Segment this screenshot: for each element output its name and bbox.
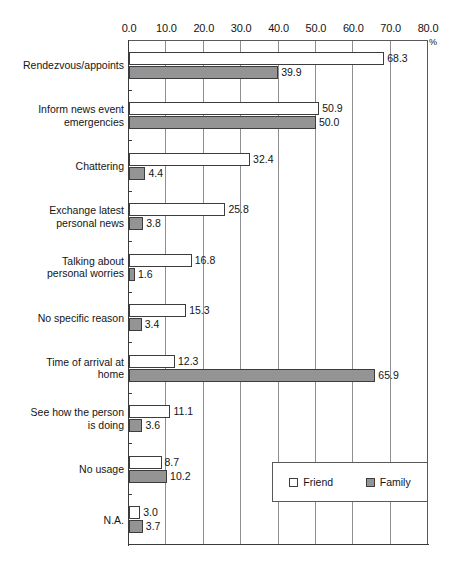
x-axis-tick-1: 10.0	[156, 22, 177, 34]
bar-family[interactable]	[129, 419, 142, 432]
percentage-bar-chart: 0.010.020.030.040.050.060.070.080.0 % Re…	[0, 0, 456, 569]
category-label: N.A.	[0, 514, 124, 527]
bar-track: 50.0	[129, 116, 428, 129]
bar-track: 11.1	[129, 405, 428, 418]
bar-track: 68.3	[129, 52, 428, 65]
bar-friend[interactable]	[129, 456, 162, 469]
bar-track: 3.6	[129, 419, 428, 432]
bar-track: 3.0	[129, 506, 428, 519]
bar-family[interactable]	[129, 167, 145, 180]
x-axis-tick-5: 50.0	[306, 22, 327, 34]
legend-item-friend[interactable]: Friend	[289, 476, 333, 488]
bar-group: N.A.3.03.7	[0, 495, 456, 546]
bar-friend[interactable]	[129, 52, 384, 65]
x-axis-tick-8: 80.0	[418, 22, 439, 34]
bar-value-label: 3.0	[140, 506, 158, 519]
bar-value-label: 10.2	[167, 470, 190, 483]
bar-friend[interactable]	[129, 102, 319, 115]
category-label: See how the person is doing	[0, 406, 124, 431]
category-label: No usage	[0, 463, 124, 476]
bar-group: Rendezvous/appoints68.339.9	[0, 40, 456, 91]
bar-track: 12.3	[129, 355, 428, 368]
bar-track: 4.4	[129, 167, 428, 180]
bar-friend[interactable]	[129, 355, 175, 368]
legend-label: Family	[380, 476, 411, 488]
bar-track: 16.8	[129, 254, 428, 267]
bar-value-label: 50.0	[316, 116, 339, 129]
x-axis-tick-7: 70.0	[380, 22, 401, 34]
chart-legend: FriendFamily	[272, 462, 428, 502]
bar-group: See how the person is doing11.13.6	[0, 394, 456, 445]
bar-value-label: 16.8	[192, 254, 215, 267]
bar-group: No specific reason15.33.4	[0, 293, 456, 344]
bar-friend[interactable]	[129, 506, 140, 519]
bar-track: 32.4	[129, 153, 428, 166]
bar-value-label: 65.9	[375, 369, 398, 382]
x-axis-tick-2: 20.0	[193, 22, 214, 34]
bar-value-label: 11.1	[170, 405, 193, 418]
bar-value-label: 3.7	[143, 520, 161, 533]
bar-track: 39.9	[129, 66, 428, 79]
legend-items: FriendFamily	[273, 463, 427, 501]
category-label: Chattering	[0, 160, 124, 173]
bar-family[interactable]	[129, 369, 375, 382]
bar-friend[interactable]	[129, 254, 192, 267]
bar-group: Exchange latest personal news25.83.8	[0, 192, 456, 243]
category-label: Inform news event emergencies	[0, 103, 124, 128]
bar-value-label: 3.4	[142, 318, 160, 331]
bar-track: 3.4	[129, 318, 428, 331]
x-axis-tick-0: 0.0	[122, 22, 137, 34]
bar-value-label: 25.8	[225, 203, 248, 216]
bar-track: 3.8	[129, 217, 428, 230]
bar-family[interactable]	[129, 217, 143, 230]
bar-value-label: 1.6	[135, 268, 153, 281]
bar-track: 1.6	[129, 268, 428, 281]
bar-value-label: 68.3	[384, 52, 407, 65]
category-label: Rendezvous/appoints	[0, 59, 124, 72]
bar-family[interactable]	[129, 66, 278, 79]
bar-value-label: 8.7	[162, 456, 180, 469]
x-axis-tick-3: 30.0	[231, 22, 252, 34]
x-axis-tick-labels: 0.010.020.030.040.050.060.070.080.0	[0, 22, 456, 36]
bar-family[interactable]	[129, 318, 142, 331]
x-axis-tick-6: 60.0	[343, 22, 364, 34]
bar-value-label: 39.9	[278, 66, 301, 79]
x-axis-tick-4: 40.0	[268, 22, 289, 34]
bar-value-label: 3.8	[143, 217, 161, 230]
bar-track: 3.7	[129, 520, 428, 533]
bar-group: Chattering32.44.4	[0, 141, 456, 192]
category-label: No specific reason	[0, 312, 124, 325]
bar-value-label: 32.4	[250, 153, 273, 166]
bar-track: 50.9	[129, 102, 428, 115]
legend-item-family[interactable]: Family	[366, 476, 411, 488]
bar-track: 25.8	[129, 203, 428, 216]
legend-swatch-icon	[366, 478, 375, 487]
bar-group: Talking about personal worries16.81.6	[0, 242, 456, 293]
bar-friend[interactable]	[129, 153, 250, 166]
bar-friend[interactable]	[129, 304, 186, 317]
category-label: Talking about personal worries	[0, 255, 124, 280]
bar-friend[interactable]	[129, 203, 225, 216]
category-label: Exchange latest personal news	[0, 204, 124, 229]
bar-value-label: 15.3	[186, 304, 209, 317]
category-label: Time of arrival at home	[0, 356, 124, 381]
bar-family[interactable]	[129, 116, 316, 129]
bar-track: 65.9	[129, 369, 428, 382]
bar-value-label: 12.3	[175, 355, 198, 368]
bar-track: 15.3	[129, 304, 428, 317]
bar-family[interactable]	[129, 520, 143, 533]
bar-value-label: 4.4	[145, 167, 163, 180]
legend-label: Friend	[303, 476, 333, 488]
legend-swatch-icon	[289, 478, 298, 487]
bar-value-label: 50.9	[319, 102, 342, 115]
bar-group: Inform news event emergencies50.950.0	[0, 91, 456, 142]
bar-family[interactable]	[129, 470, 167, 483]
bar-friend[interactable]	[129, 405, 170, 418]
bar-value-label: 3.6	[142, 419, 160, 432]
bar-group: Time of arrival at home12.365.9	[0, 343, 456, 394]
